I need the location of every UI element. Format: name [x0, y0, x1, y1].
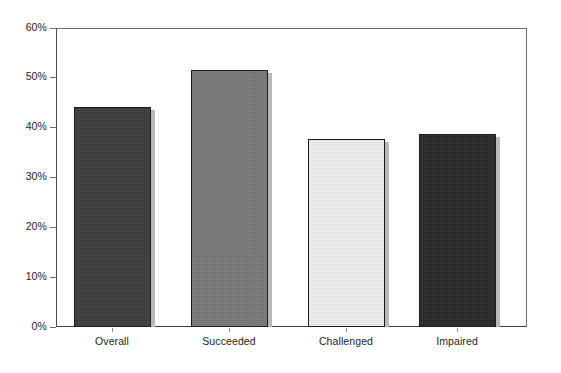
y-tick-mark-30 [50, 177, 56, 178]
chart-screenshot: 60% 50% 40% 30% 20% 10% 0% [0, 0, 561, 373]
x-tick-mark-1 [112, 328, 113, 332]
y-tick-mark-10 [50, 277, 56, 278]
y-tick-mark-40 [50, 127, 56, 128]
bar-shadow-overall [151, 110, 155, 327]
y-axis-label-40: 40% [3, 121, 47, 132]
y-tick-mark-60 [50, 28, 56, 29]
bar-shadow-impaired [496, 137, 500, 327]
y-tick-mark-20 [50, 227, 56, 228]
bar-overall [74, 107, 151, 327]
bar-shadow-succeeded [268, 73, 272, 327]
y-axis-label-10: 10% [3, 271, 47, 282]
y-tick-mark-0 [50, 327, 56, 328]
x-axis-label-succeeded: Succeeded [179, 336, 279, 347]
x-axis-label-challenged: Challenged [296, 336, 396, 347]
y-axis-label-20: 20% [3, 221, 47, 232]
y-axis-label-50: 50% [3, 71, 47, 82]
bar-impaired [419, 134, 496, 327]
x-axis-label-overall: Overall [62, 336, 162, 347]
y-axis-label-0: 0% [3, 321, 47, 332]
y-tick-mark-50 [50, 77, 56, 78]
x-tick-mark-2 [229, 328, 230, 332]
y-axis-label-30: 30% [3, 171, 47, 182]
bar-succeeded [191, 70, 268, 327]
y-axis-label-60: 60% [3, 22, 47, 33]
x-tick-mark-3 [346, 328, 347, 332]
x-tick-mark-4 [457, 328, 458, 332]
bar-shadow-challenged [385, 142, 389, 327]
x-axis-label-impaired: Impaired [407, 336, 507, 347]
bar-challenged [308, 139, 385, 327]
